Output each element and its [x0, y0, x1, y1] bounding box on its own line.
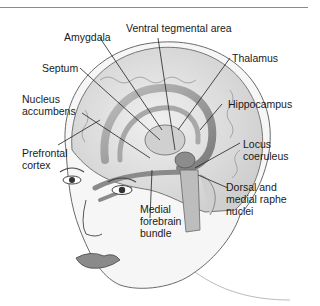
label-locus-coeruleus-1: Locus	[243, 138, 271, 150]
label-thalamus: Thalamus	[232, 52, 278, 64]
amygdala-shape	[175, 152, 195, 168]
label-medial-forebrain-bundle-2: forebrain	[140, 215, 181, 227]
label-nucleus-accumbens-1: Nucleus	[22, 93, 60, 105]
label-locus-coeruleus-2: coeruleus	[243, 150, 289, 162]
right-eye	[119, 187, 125, 193]
label-medial-forebrain-bundle-1: Medial	[140, 203, 171, 215]
thalamus-shape	[145, 125, 185, 155]
label-raphe-nuclei-3: nuclei	[226, 205, 253, 217]
label-medial-forebrain-bundle-3: bundle	[140, 227, 172, 239]
label-raphe-nuclei-2: medial raphe	[226, 193, 287, 205]
label-raphe-nuclei-1: Dorsal and	[226, 181, 277, 193]
label-ventral-tegmental-area: Ventral tegmental area	[126, 22, 232, 34]
label-nucleus-accumbens-2: accumbens	[22, 105, 76, 117]
label-prefrontal-cortex-2: cortex	[22, 159, 51, 171]
label-prefrontal-cortex-1: Prefrontal	[22, 147, 68, 159]
label-amygdala: Amygdala	[64, 31, 111, 43]
left-eye	[69, 177, 75, 183]
label-septum: Septum	[42, 62, 78, 74]
label-hippocampus: Hippocampus	[228, 98, 292, 110]
